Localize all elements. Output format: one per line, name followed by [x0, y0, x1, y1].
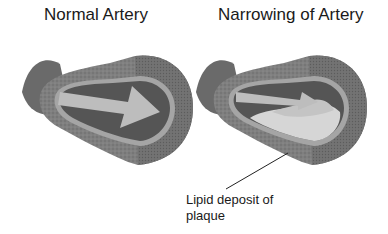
plaque-pointer-line [226, 153, 288, 189]
normal-artery-figure [22, 55, 193, 165]
plaque-label-line1: Lipid deposit of [186, 192, 273, 208]
narrowed-artery-figure [196, 55, 367, 165]
plaque-label: Lipid deposit of plaque [186, 192, 273, 224]
plaque-label-line2: plaque [186, 208, 273, 224]
